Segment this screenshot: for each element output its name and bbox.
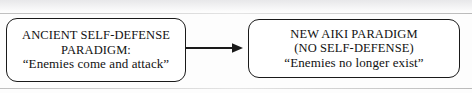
node-ancient-line-1: ANCIENT SELF-DEFENSE (22, 28, 170, 43)
node-aiki-line-3: “Enemies no longer exist” (284, 56, 423, 71)
diagram-canvas: ANCIENT SELF-DEFENSE PARADIGM: “Enemies … (0, 0, 472, 93)
scan-artifact-top-smudge (0, 0, 472, 12)
node-new-aiki-paradigm[interactable]: NEW AIKI PARADIGM (NO SELF-DEFENSE) “Ene… (248, 19, 460, 78)
arrow-ancient-to-aiki (186, 40, 244, 52)
node-aiki-line-2: (NO SELF-DEFENSE) (294, 41, 413, 56)
node-aiki-line-1: NEW AIKI PARADIGM (290, 27, 417, 42)
scan-artifact-line-bottom (0, 88, 472, 89)
scan-artifact-line-top (0, 13, 472, 14)
node-ancient-line-2: PARADIGM: (61, 43, 131, 58)
node-ancient-line-3: “Enemies come and attack” (23, 57, 170, 72)
arrow-icon (186, 42, 244, 54)
node-ancient-self-defense-paradigm[interactable]: ANCIENT SELF-DEFENSE PARADIGM: “Enemies … (6, 18, 186, 82)
